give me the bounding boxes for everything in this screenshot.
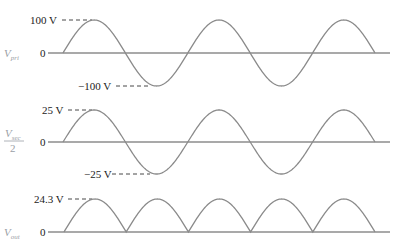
signal-label-vsec: Vsec xyxy=(5,127,22,142)
fraction-denominator: 2 xyxy=(10,142,16,154)
peak-label: 100 V xyxy=(30,14,57,26)
trough-label: −100 V xyxy=(78,80,111,92)
trough-label: −25 V xyxy=(84,168,112,180)
panel-vpri: Vpri 0 100 V −100 V xyxy=(4,14,390,92)
panel-vsec-half: Vsec 2 0 25 V −25 V xyxy=(4,104,390,180)
waveform-diagram: Vpri 0 100 V −100 V Vsec 2 0 25 V −25 V … xyxy=(0,0,402,248)
peak-label: 25 V xyxy=(42,104,64,116)
zero-label: 0 xyxy=(40,47,46,59)
zero-label: 0 xyxy=(40,136,46,148)
zero-label: 0 xyxy=(40,226,46,238)
signal-label-vout: Vout xyxy=(4,226,21,241)
rectified-wave-output xyxy=(64,199,375,232)
signal-label-vpri: Vpri xyxy=(4,47,19,62)
panel-vout: Vout 0 24.3 V xyxy=(4,193,390,241)
peak-label: 24.3 V xyxy=(34,193,64,205)
